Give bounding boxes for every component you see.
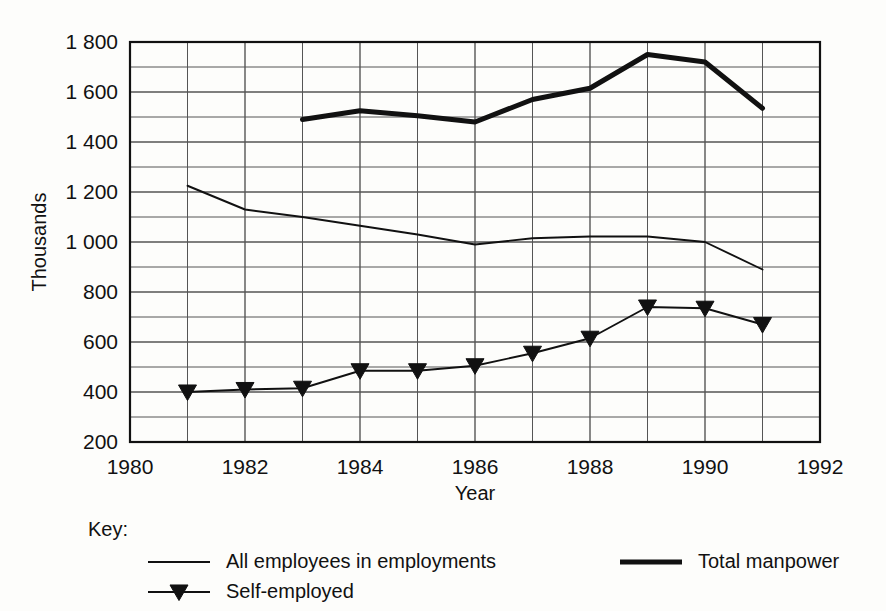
x-tick-label: 1988 bbox=[567, 455, 614, 478]
y-tick-label: 1 800 bbox=[65, 30, 118, 53]
y-tick-label: 1 200 bbox=[65, 180, 118, 203]
x-tick-label: 1982 bbox=[222, 455, 269, 478]
y-tick-label: 1 000 bbox=[65, 230, 118, 253]
line-chart: 2004006008001 0001 2001 4001 6001 800 19… bbox=[0, 0, 886, 611]
x-tick-label: 1992 bbox=[797, 455, 844, 478]
legend-label: Self-employed bbox=[226, 580, 354, 602]
y-tick-label: 1 600 bbox=[65, 80, 118, 103]
y-tick-label: 600 bbox=[83, 330, 118, 353]
legend-label: Total manpower bbox=[698, 550, 840, 572]
legend-title: Key: bbox=[88, 518, 128, 540]
y-tick-label: 200 bbox=[83, 430, 118, 453]
y-tick-label: 800 bbox=[83, 280, 118, 303]
x-tick-label: 1986 bbox=[452, 455, 499, 478]
y-tick-label: 1 400 bbox=[65, 130, 118, 153]
x-axis-title: Year bbox=[455, 482, 496, 504]
y-axis-title: Thousands bbox=[28, 193, 50, 292]
x-tick-label: 1990 bbox=[682, 455, 729, 478]
x-tick-label: 1984 bbox=[337, 455, 384, 478]
y-tick-label: 400 bbox=[83, 380, 118, 403]
chart-figure: 2004006008001 0001 2001 4001 6001 800 19… bbox=[0, 0, 886, 611]
legend-label: All employees in employments bbox=[226, 550, 496, 572]
x-tick-label: 1980 bbox=[107, 455, 154, 478]
